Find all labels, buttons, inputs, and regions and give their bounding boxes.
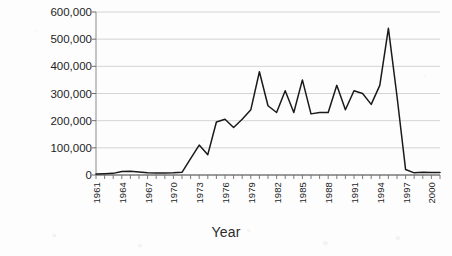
- plot-area: [0, 0, 452, 256]
- chart-figure: Metric Ton Year 0100,000200,000300,00040…: [0, 0, 452, 256]
- data-series-line: [96, 28, 440, 174]
